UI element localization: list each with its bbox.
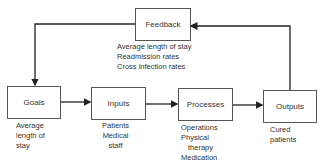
detail-line: length of: [16, 131, 45, 141]
feedback-box: Feedback: [135, 8, 191, 41]
inputs-title: Inputs: [108, 99, 130, 108]
goals-box: Goals: [7, 86, 61, 119]
detail-line: Medical: [102, 131, 129, 141]
goals-title: Goals: [24, 98, 45, 107]
detail-line: therapy: [181, 143, 218, 153]
detail-line: Average: [16, 121, 45, 131]
detail-line: stay: [16, 141, 45, 151]
detail-line: Physical: [181, 133, 218, 143]
inputs-box: Inputs: [91, 87, 146, 120]
detail-line: patients: [270, 135, 296, 145]
feedback-item: Cross infection rates: [117, 62, 192, 72]
outputs-title: Outputs: [276, 102, 304, 111]
goals-details: Average length of stay: [16, 121, 45, 151]
detail-line: Operations: [181, 123, 218, 133]
outputs-box: Outputs: [263, 90, 317, 123]
detail-line: Cured: [270, 125, 296, 135]
outputs-to-feedback-arrow: [191, 26, 290, 90]
processes-details: Operations Physical therapy Medication: [181, 123, 218, 163]
inputs-details: Patients Medical staff: [102, 121, 129, 151]
feedback-item: Average length of stay: [117, 42, 192, 52]
detail-line: Patients: [102, 121, 129, 131]
outputs-details: Cured patients: [270, 125, 296, 145]
feedback-item: Readmission rates: [117, 52, 192, 62]
feedback-items: Average length of stay Readmission rates…: [117, 42, 192, 72]
detail-line: Medication: [181, 153, 218, 163]
feedback-title: Feedback: [145, 20, 180, 29]
processes-box: Processes: [178, 88, 233, 121]
processes-title: Processes: [187, 100, 224, 109]
detail-line: staff: [102, 141, 129, 151]
